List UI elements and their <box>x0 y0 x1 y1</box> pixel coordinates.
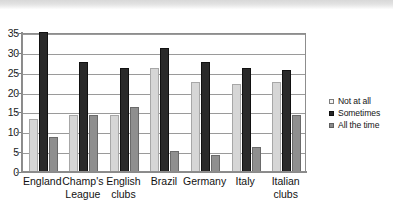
bar-group <box>64 34 105 171</box>
bar <box>191 82 200 171</box>
bar-group <box>266 34 307 171</box>
bar <box>29 119 38 171</box>
y-axis-tick-labels: 05101520253035 <box>0 33 19 172</box>
chart-legend: Not at allSometimesAll the time <box>329 96 391 132</box>
bar <box>130 107 139 171</box>
bar-group <box>23 34 64 171</box>
bar <box>49 137 58 171</box>
category-label-line: Italian <box>259 175 312 188</box>
grouped-bar-chart: 05101520253035 EnglandChamp'sLeagueEngli… <box>0 0 393 219</box>
bar <box>120 68 129 171</box>
bar <box>110 115 119 171</box>
legend-swatch-icon <box>329 99 334 104</box>
bar <box>232 84 241 171</box>
legend-item[interactable]: Sometimes <box>329 108 391 119</box>
bar <box>150 68 159 171</box>
legend-item[interactable]: Not at all <box>329 96 391 107</box>
plot-inner <box>23 34 305 171</box>
bar <box>201 62 210 171</box>
category-label-line: clubs <box>259 188 312 201</box>
bar-group <box>226 34 267 171</box>
bar <box>292 115 301 171</box>
bar <box>69 115 78 171</box>
bar <box>282 70 291 171</box>
bar <box>211 155 220 171</box>
bar <box>242 68 251 171</box>
bar <box>79 62 88 171</box>
bar <box>160 48 169 171</box>
bar-group <box>104 34 145 171</box>
bar-group <box>145 34 186 171</box>
legend-label: Sometimes <box>338 108 380 118</box>
bar <box>252 147 261 171</box>
bar-group <box>185 34 226 171</box>
bar <box>39 32 48 171</box>
category-label: Italianclubs <box>259 175 312 200</box>
category-label-line: clubs <box>97 188 150 201</box>
x-axis-category-labels: EnglandChamp'sLeagueEnglishclubsBrazilGe… <box>22 175 306 215</box>
legend-label: All the time <box>338 120 379 130</box>
bar <box>170 151 179 171</box>
bar <box>89 115 98 171</box>
legend-swatch-icon <box>329 111 334 116</box>
plot-area <box>22 33 306 172</box>
bar <box>272 82 281 171</box>
legend-item[interactable]: All the time <box>329 120 391 131</box>
legend-swatch-icon <box>329 123 334 128</box>
legend-label: Not at all <box>338 96 371 106</box>
